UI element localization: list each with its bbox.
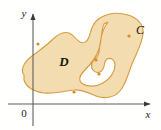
region-diagram-svg: y x 0 D C (0, 0, 161, 130)
orientation-marker (97, 72, 100, 75)
y-axis-label: y (21, 7, 27, 19)
figure-container: y x 0 D C (0, 0, 161, 130)
region-d-shape (22, 13, 143, 97)
x-axis-label: x (145, 108, 151, 120)
orientation-marker (36, 42, 39, 45)
orientation-marker (127, 34, 130, 37)
region-label-d: D (58, 54, 69, 69)
orientation-marker (72, 90, 75, 93)
orientation-marker (94, 58, 97, 61)
origin-label: 0 (21, 107, 27, 119)
region-shape-group (22, 13, 143, 97)
curve-label-c: C (136, 23, 145, 37)
